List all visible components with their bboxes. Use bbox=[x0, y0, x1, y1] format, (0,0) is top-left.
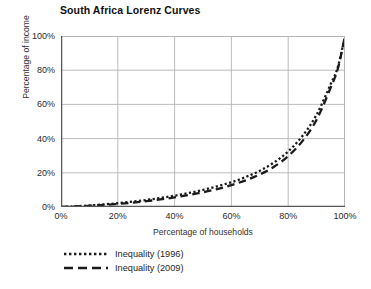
legend-label-2009: Inequality (2009) bbox=[109, 263, 183, 273]
x-tick-label-40: 40% bbox=[153, 211, 197, 221]
gridlines bbox=[61, 36, 345, 207]
x-tick-label-0: 0% bbox=[39, 211, 83, 221]
legend-swatch-dotted-icon bbox=[63, 249, 109, 259]
x-tick-label-60: 60% bbox=[209, 211, 253, 221]
legend-swatch-dashed-icon bbox=[63, 263, 109, 273]
plot-area bbox=[61, 36, 345, 207]
y-axis-tick-labels: 100% 80% 60% 40% 20% 0% bbox=[21, 36, 55, 207]
y-tick-label-100: 100% bbox=[21, 31, 55, 41]
legend-label-1996: Inequality (1996) bbox=[109, 249, 183, 259]
x-tick-label-80: 80% bbox=[266, 211, 310, 221]
chart-legend: Inequality (1996) Inequality (2009) bbox=[63, 247, 313, 275]
y-tick-label-80: 80% bbox=[21, 65, 55, 75]
x-tick-label-20: 20% bbox=[96, 211, 140, 221]
axis-lines bbox=[61, 36, 345, 207]
x-axis-tick-labels: 0% 20% 40% 60% 80% 100% bbox=[61, 211, 345, 225]
y-tick-label-20: 20% bbox=[21, 168, 55, 178]
x-tick-label-100: 100% bbox=[323, 211, 367, 221]
series-line-1 bbox=[61, 36, 345, 207]
legend-item-1996[interactable]: Inequality (1996) bbox=[63, 247, 313, 261]
plot-frame bbox=[62, 37, 345, 207]
plot-svg bbox=[61, 36, 345, 207]
lorenz-curve-chart: South Africa Lorenz Curves Percentage of… bbox=[0, 0, 371, 289]
series-lines bbox=[61, 36, 345, 207]
y-tick-label-60: 60% bbox=[21, 99, 55, 109]
legend-item-2009[interactable]: Inequality (2009) bbox=[63, 261, 313, 275]
chart-title: South Africa Lorenz Curves bbox=[60, 4, 200, 16]
y-tick-label-40: 40% bbox=[21, 134, 55, 144]
x-axis-label: Percentage of households bbox=[61, 227, 345, 237]
series-line-2 bbox=[61, 36, 345, 207]
